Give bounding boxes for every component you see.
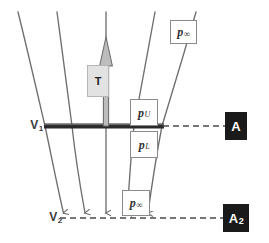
pressure-freestream-top-subscript: ∞ (184, 30, 190, 39)
pressure-freestream-top-symbol: p (177, 26, 183, 38)
pressure-freestream-bottom-symbol: p (130, 197, 136, 209)
actuator-disk-figure: V1 V2 T p∞ pU pL p∞ A A2 (0, 0, 269, 243)
streamline-inner-left (57, 12, 85, 213)
pressure-lower-symbol: p (139, 139, 145, 151)
streamline-outer-left (18, 12, 64, 213)
area-wake-subscript: 2 (239, 217, 244, 226)
pressure-freestream-bottom-box: p∞ (122, 190, 150, 216)
pressure-upper-symbol: p (138, 107, 144, 119)
thrust-label-box: T (87, 65, 109, 97)
pressure-upper-subscript: U (145, 111, 151, 119)
velocity-upstream-label: V1 (30, 119, 43, 131)
area-wake-box: A2 (223, 204, 249, 232)
pressure-lower-subscript: L (145, 143, 149, 151)
pressure-lower-box: pL (130, 131, 158, 158)
area-wake-label: A (229, 212, 238, 225)
pressure-freestream-top-box: p∞ (170, 20, 197, 44)
pressure-freestream-bottom-subscript: ∞ (136, 201, 142, 210)
thrust-label-text: T (95, 75, 102, 87)
pressure-upper-box: pU (130, 99, 158, 126)
velocity-downstream-label: V2 (49, 211, 62, 223)
area-disk-box: A (225, 112, 247, 140)
area-disk-label: A (231, 120, 240, 133)
